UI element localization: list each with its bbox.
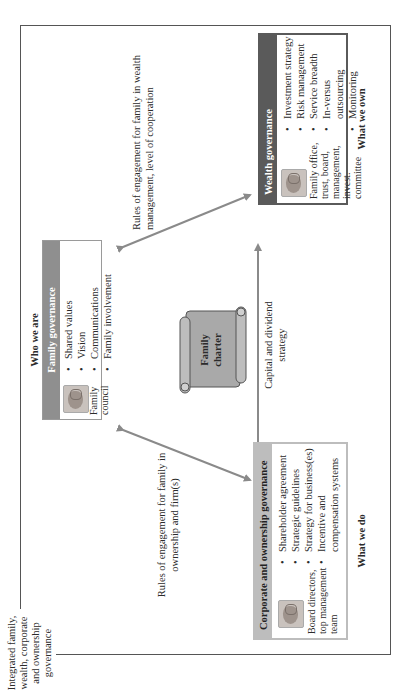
wealth-item: In-versus outsourcing [320,31,346,131]
family-governance-title: Family governance [43,241,60,419]
capital-dividend-label: Capital and dividend strategy [262,295,288,395]
wealth-caption: What we own [355,33,368,205]
wealth-bodies-icon [281,169,307,197]
family-council-icon [63,385,89,413]
family-charter-scroll: Family charter [178,305,248,395]
corporate-caption: What we do [355,442,368,640]
wealth-engagement-label: Rules of engagement for family in wealth… [130,50,156,230]
wealth-item: Risk management [294,31,307,131]
corporate-governance-title: Corporate and ownership governance [255,444,272,638]
family-charter-label: Family charter [198,325,224,375]
corporate-governance-box: Corporate and ownership governance Board… [253,442,348,640]
wealth-item: Investment strategy [281,31,294,131]
corporate-item: Incentive and compensation systems [315,440,341,564]
corporate-items: Shareholder agreement Strategic guidelin… [276,440,341,564]
arrow-family-corporate [123,430,250,480]
family-item: Communications [88,241,101,371]
family-caption: Who we are [28,255,41,425]
corporate-bodies: Board directors, top management team [306,564,339,634]
family-governance-box: Family governance Family council Shared … [42,240,102,420]
family-item: Shared values [62,241,75,371]
corporate-item: Shareholder agreement [276,440,289,564]
corporate-engagement-label: Rules of engagement for family in owners… [155,450,181,600]
corporate-bodies-icon [278,600,304,628]
corporate-item: Strategy for business(es) [302,440,315,564]
wealth-item: Service breadth [307,31,320,131]
wealth-governance-box: Wealth governance Family office, trust, … [258,33,348,205]
family-items: Shared values Vision Communications Fami… [62,241,114,371]
wealth-governance-title: Wealth governance [260,35,277,203]
family-item: Family involvement [101,241,114,371]
corporate-item: Strategic guidelines [289,440,302,564]
diagram-canvas: Integrated family, wealth, corporate and… [0,0,408,695]
family-bodies: Family council [88,375,110,415]
family-item: Vision [75,241,88,371]
wealth-items: Investment strategy Risk management Serv… [281,31,359,131]
